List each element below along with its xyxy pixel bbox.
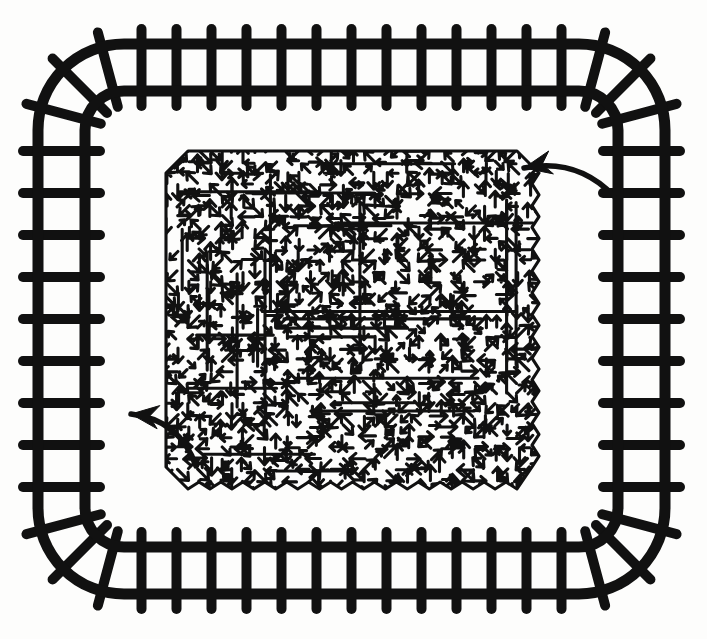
diagram-svg [0, 0, 707, 639]
figure-canvas [0, 0, 707, 639]
